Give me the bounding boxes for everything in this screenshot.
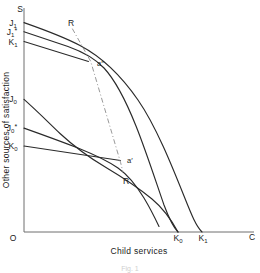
x-axis-title: Child services — [110, 246, 167, 256]
y-axis-title: Other sources of satisfaction — [1, 72, 11, 188]
ray-label-r-lower: R — [123, 176, 129, 186]
point-label-a-prime: a′ — [127, 156, 133, 165]
axes-group — [24, 8, 254, 232]
y-axis-end-label: S — [17, 4, 23, 14]
line-k0 — [24, 146, 121, 160]
curve-j0-star — [24, 128, 159, 226]
curve-j0 — [24, 99, 178, 232]
point-label-a-double-prime: a″ — [97, 59, 104, 68]
y-label-k1: K1 — [8, 37, 18, 48]
figure-caption: Fig. 1 — [121, 265, 139, 273]
x-axis-end-label: C — [249, 232, 255, 242]
indifference-curve-chart: S C O J1 J1* K1 J0 J0* K0 — [0, 0, 260, 273]
x-axis-tick-labels: K0 K1 — [173, 233, 208, 244]
origin-label: O — [10, 233, 17, 243]
ray-label-r-upper: R — [68, 18, 74, 28]
curve-j1 — [24, 23, 202, 232]
curves-group — [24, 23, 202, 232]
x-label-k1: K1 — [198, 233, 208, 244]
figure-container: S C O J1 J1* K1 J0 J0* K0 — [0, 0, 260, 273]
x-label-k0: K0 — [173, 233, 183, 244]
